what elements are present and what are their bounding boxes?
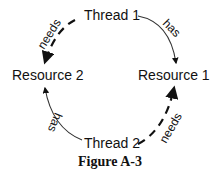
node-thread2: Thread 2 bbox=[84, 135, 140, 151]
node-thread1: Thread 1 bbox=[84, 7, 140, 23]
node-resource2: Resource 2 bbox=[12, 67, 84, 83]
node-resource1: Resource 1 bbox=[138, 67, 210, 83]
edge-thread2-has-resource2 bbox=[45, 88, 82, 140]
diagram-canvas: Thread 1 Resource 2 Resource 1 Thread 2 … bbox=[0, 0, 210, 174]
figure-caption: Figure A-3 bbox=[78, 154, 142, 169]
label-needs-bottom: needs bbox=[156, 110, 184, 145]
label-has-bottom: has bbox=[45, 111, 65, 134]
label-has-top: has bbox=[160, 16, 184, 40]
